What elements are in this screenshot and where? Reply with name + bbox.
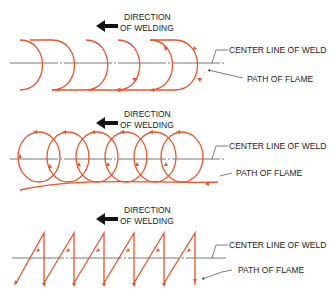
flame-leader	[220, 173, 232, 176]
flame-leader	[208, 70, 243, 78]
centerline-leader	[212, 146, 228, 159]
flame-path	[18, 132, 218, 190]
flame-path	[16, 233, 195, 285]
centerline-leader	[212, 50, 228, 63]
direction-label-line2: OF WELDING	[120, 120, 174, 130]
panel-semicircular: DIRECTION OF WELDING CENTER LINE OF WELD…	[10, 12, 326, 92]
direction-arrow-icon	[96, 117, 118, 129]
panel-zigzag: DIRECTION OF WELDING CENTER LINE OF WELD…	[12, 205, 326, 287]
flame-path	[20, 40, 198, 90]
direction-label-line1: DIRECTION	[124, 205, 171, 215]
centerline-leader	[212, 245, 228, 258]
panel-circular: DIRECTION OF WELDING	[10, 109, 326, 190]
direction-label-line2: OF WELDING	[120, 216, 174, 226]
direction-arrow-icon	[96, 20, 118, 32]
flame-label: PATH OF FLAME	[236, 168, 303, 178]
direction-label-line1: DIRECTION	[124, 109, 171, 119]
flame-label: PATH OF FLAME	[247, 74, 314, 84]
centerline-label: CENTER LINE OF WELD	[229, 240, 326, 250]
flame-leader	[202, 270, 232, 279]
direction-label-line1: DIRECTION	[124, 12, 171, 22]
centerline-label: CENTER LINE OF WELD	[229, 141, 326, 151]
flame-label: PATH OF FLAME	[238, 265, 305, 275]
centerline-label: CENTER LINE OF WELD	[229, 45, 326, 55]
direction-label-line2: OF WELDING	[120, 23, 174, 33]
welding-patterns-diagram: DIRECTION OF WELDING CENTER LINE OF WELD…	[0, 0, 333, 300]
direction-arrow-icon	[96, 213, 118, 225]
